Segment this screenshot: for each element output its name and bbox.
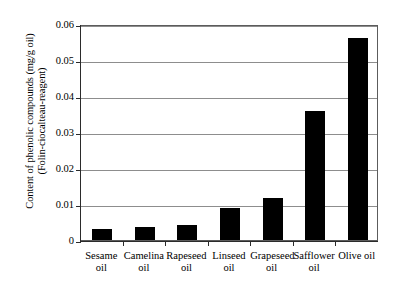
- x-tick-mark: [165, 241, 166, 246]
- gridline: [81, 134, 377, 135]
- y-tick-label: 0.06: [56, 20, 74, 31]
- y-tick-label: 0.04: [56, 92, 74, 103]
- y-axis-line: [80, 25, 81, 242]
- x-tick-mark: [123, 241, 124, 246]
- x-category-label: Rapeseed oil: [165, 250, 208, 274]
- x-category-label: Camelina oil: [123, 250, 166, 274]
- x-category-label: Olive oil: [335, 250, 378, 262]
- bar: [220, 208, 240, 240]
- bar: [135, 227, 155, 240]
- x-tick-mark: [293, 241, 294, 246]
- y-axis-title: Content of phenolic compounds (mg/g oil)…: [19, 1, 53, 241]
- x-tick-mark: [208, 241, 209, 246]
- y-tick-label: 0: [69, 236, 74, 247]
- plot-area: [80, 25, 378, 241]
- x-category-label: Safflower oil: [293, 250, 336, 274]
- bar: [177, 225, 197, 240]
- gridline: [81, 170, 377, 171]
- y-tick-label: 0.05: [56, 56, 74, 67]
- x-axis-line: [80, 241, 378, 242]
- y-axis-title-line-2: (Folin-ciocalteau-reagent): [36, 68, 48, 175]
- x-tick-mark: [335, 241, 336, 246]
- gridline: [81, 26, 377, 27]
- y-tick-mark: [76, 242, 81, 243]
- x-category-label: Linseed oil: [208, 250, 251, 274]
- gridline: [81, 62, 377, 63]
- gridline: [81, 98, 377, 99]
- bar: [263, 198, 283, 240]
- bar: [348, 38, 368, 240]
- bar-chart-figure: Content of phenolic compounds (mg/g oil)…: [0, 0, 396, 289]
- x-category-label: Sesame oil: [80, 250, 123, 274]
- y-tick-label: 0.01: [56, 200, 74, 211]
- y-tick-label: 0.03: [56, 128, 74, 139]
- x-tick-mark: [250, 241, 251, 246]
- bar: [305, 111, 325, 240]
- x-category-label: Grapeseed oil: [250, 250, 293, 274]
- y-tick-label: 0.02: [56, 164, 74, 175]
- bar: [92, 229, 112, 240]
- y-axis-title-line-1: Content of phenolic compounds (mg/g oil): [24, 33, 36, 208]
